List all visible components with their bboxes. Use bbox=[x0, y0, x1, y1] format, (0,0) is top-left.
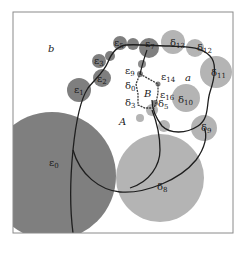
region-label-A: A bbox=[118, 116, 126, 127]
label-delta-3: δ3 bbox=[125, 97, 136, 110]
delta-disk-10 bbox=[172, 84, 200, 112]
label-epsilon-14: ε14 bbox=[161, 71, 176, 84]
diagram-canvas: b a A B ε0 ε1 ε2 ε3 ε5 ε7 ε9 ε14 ε16 δ0 … bbox=[0, 0, 251, 254]
epsilon-disk-0 bbox=[0, 112, 116, 240]
epsilon-disk-6 bbox=[127, 38, 139, 50]
label-delta-0: δ0 bbox=[125, 80, 136, 93]
delta-disk-small-c bbox=[136, 114, 144, 122]
label-epsilon-9: ε9 bbox=[125, 65, 135, 78]
region-label-B: B bbox=[143, 88, 151, 99]
region-label-a: a bbox=[185, 72, 191, 83]
region-label-b: b bbox=[48, 43, 54, 54]
